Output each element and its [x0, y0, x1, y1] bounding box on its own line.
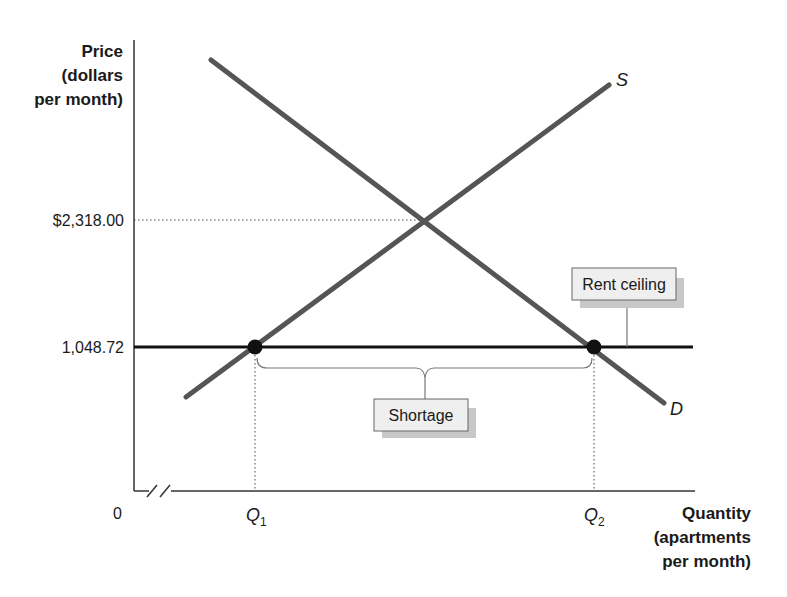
x-axis-label-line-3: per month)	[662, 552, 751, 571]
shortage-bracket	[257, 358, 592, 378]
supply-label: S	[616, 70, 628, 90]
origin-label: 0	[113, 505, 122, 522]
y-axis-label-line-2: (dollars	[62, 66, 123, 85]
demand-label: D	[670, 399, 683, 419]
shortage-callout-text: Shortage	[389, 407, 454, 424]
rent-ceiling-callout-text: Rent ceiling	[582, 276, 666, 293]
y-axis-label-line-1: Price	[81, 42, 123, 61]
x-axis-label-line-2: (apartments	[654, 528, 751, 547]
y-tick-equilibrium-price: $2,318.00	[53, 212, 124, 229]
x-axis-label-line-1: Quantity	[682, 504, 751, 523]
y-axis-label-line-3: per month)	[34, 90, 123, 109]
q2-point	[587, 340, 602, 355]
q1-point	[248, 340, 263, 355]
x-tick-q2: Q2	[584, 505, 605, 529]
x-tick-q1: Q1	[246, 505, 267, 529]
y-tick-ceiling-price: 1,048.72	[62, 339, 124, 356]
supply-demand-chart: Price (dollars per month) Quantity (apar…	[0, 0, 787, 597]
